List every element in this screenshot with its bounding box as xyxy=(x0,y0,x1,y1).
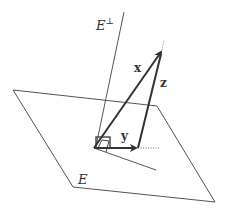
plane-direction-line xyxy=(94,148,156,170)
label-e-perp: E⊥ xyxy=(95,16,114,33)
label-plane-e: E xyxy=(77,172,88,187)
projection-diagram: E⊥ x z y E xyxy=(0,0,229,213)
label-y: y xyxy=(120,129,129,143)
plane-e xyxy=(13,90,215,202)
label-x: x xyxy=(134,61,142,75)
label-z: z xyxy=(160,76,167,90)
x-extension-dotted xyxy=(162,40,164,50)
